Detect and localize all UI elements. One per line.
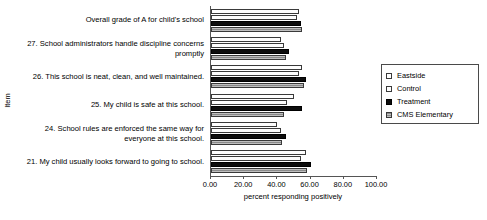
bar bbox=[211, 55, 286, 60]
x-axis-tick-label: 100.00 bbox=[356, 180, 396, 189]
x-axis-line bbox=[210, 176, 376, 177]
legend-label: CMS Elementary bbox=[397, 110, 453, 119]
legend-label: Treatment bbox=[397, 97, 430, 106]
bar bbox=[211, 83, 304, 88]
bar bbox=[211, 71, 299, 76]
bar bbox=[211, 94, 294, 99]
legend-item[interactable]: Control bbox=[386, 82, 478, 95]
legend-item[interactable]: Treatment bbox=[386, 95, 478, 108]
bar bbox=[211, 49, 289, 54]
x-axis-tick bbox=[310, 176, 311, 179]
category-label: 21. My child usually looks forward to go… bbox=[18, 157, 204, 167]
category-label: 24. School rules are enforced the same w… bbox=[18, 124, 204, 143]
x-axis-tick bbox=[376, 176, 377, 179]
bar bbox=[211, 65, 302, 70]
category-label: 25. My child is safe at this school. bbox=[18, 100, 204, 110]
legend-swatch bbox=[386, 73, 392, 79]
bar bbox=[211, 162, 311, 167]
bar bbox=[211, 43, 284, 48]
y-axis-title: Item bbox=[3, 81, 12, 121]
bar bbox=[211, 21, 301, 26]
plot-area bbox=[210, 6, 376, 176]
category-label: 26. This school is neat, clean, and well… bbox=[18, 72, 204, 82]
bar-group bbox=[211, 122, 377, 145]
bar bbox=[211, 150, 306, 155]
bar bbox=[211, 168, 307, 173]
x-axis-tick bbox=[343, 176, 344, 179]
x-axis-title: percent responding positively bbox=[210, 192, 376, 201]
x-axis-tick bbox=[210, 176, 211, 179]
category-label: 27. School administrators handle discipl… bbox=[18, 39, 204, 58]
bar-group bbox=[211, 65, 377, 88]
legend-swatch bbox=[386, 86, 392, 92]
x-axis-tick bbox=[276, 176, 277, 179]
bar-chart: Item Overall grade of A for child's scho… bbox=[0, 0, 487, 220]
legend-item[interactable]: CMS Elementary bbox=[386, 108, 478, 121]
bar bbox=[211, 112, 284, 117]
bar bbox=[211, 9, 299, 14]
x-axis-tick-labels: 0.0020.0040.0060.0080.00100.00 bbox=[210, 180, 376, 192]
bar bbox=[211, 140, 282, 145]
bar bbox=[211, 156, 301, 161]
bar-group bbox=[211, 94, 377, 117]
legend-item[interactable]: Eastside bbox=[386, 69, 478, 82]
bar bbox=[211, 100, 287, 105]
bar bbox=[211, 106, 302, 111]
legend-swatch bbox=[386, 112, 392, 118]
bar bbox=[211, 128, 281, 133]
category-label: Overall grade of A for child's school bbox=[18, 15, 204, 25]
bar-group bbox=[211, 37, 377, 60]
category-label-list: Overall grade of A for child's school27.… bbox=[18, 6, 204, 176]
bar bbox=[211, 27, 302, 32]
bar bbox=[211, 15, 297, 20]
bar bbox=[211, 134, 286, 139]
legend-swatch bbox=[386, 99, 392, 105]
legend: EastsideControlTreatmentCMS Elementary bbox=[381, 64, 479, 124]
bar bbox=[211, 77, 306, 82]
bar bbox=[211, 122, 277, 127]
bar bbox=[211, 37, 281, 42]
bar-group bbox=[211, 9, 377, 32]
x-axis-tick bbox=[243, 176, 244, 179]
legend-label: Control bbox=[397, 84, 421, 93]
legend-label: Eastside bbox=[397, 71, 425, 80]
bar-group bbox=[211, 150, 377, 173]
